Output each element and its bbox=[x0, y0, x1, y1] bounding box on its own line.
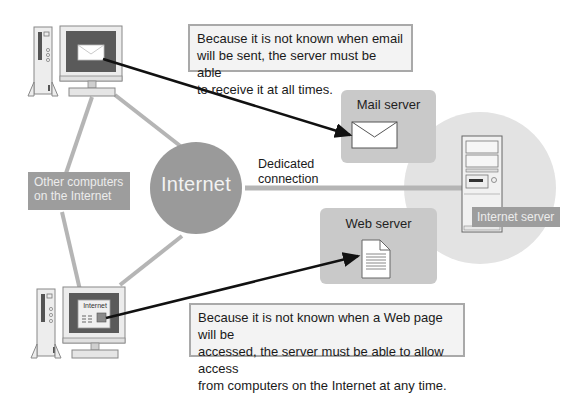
internet-server-label: Internet server bbox=[472, 207, 560, 227]
document-icon bbox=[362, 240, 390, 278]
mail-server-label: Mail server bbox=[341, 97, 436, 112]
web-note: Because it is not known when a Web page … bbox=[189, 303, 465, 357]
email-note: Because it is not known when email will … bbox=[188, 24, 413, 72]
email-note-line-1: Because it is not known when email bbox=[197, 30, 404, 47]
other-computers-line-1: Other computers bbox=[34, 175, 124, 189]
client-computer-bottom bbox=[31, 287, 125, 358]
dedicated-connection-label: Dedicated connection bbox=[258, 157, 318, 187]
other-computers-line-2: on the Internet bbox=[34, 189, 124, 203]
browser-screen-label: Internet bbox=[80, 302, 110, 309]
connector-bottom-left bbox=[62, 212, 80, 290]
internet-node: Internet bbox=[150, 142, 242, 234]
web-server-label: Web server bbox=[320, 216, 437, 231]
dedicated-line-1: Dedicated bbox=[258, 157, 318, 172]
web-note-line-3: from computers on the Internet at any ti… bbox=[198, 377, 456, 394]
web-note-line-1: Because it is not known when a Web page … bbox=[198, 309, 456, 343]
dedicated-line-2: connection bbox=[258, 172, 318, 187]
connector-bottom-internet bbox=[120, 236, 182, 285]
web-note-line-2: accessed, the server must be able to all… bbox=[198, 343, 456, 377]
email-note-line-3: to receive it at all times. bbox=[197, 81, 404, 98]
other-computers-label: Other computers on the Internet bbox=[28, 172, 130, 210]
internet-label: Internet bbox=[150, 173, 242, 196]
email-note-line-2: will be sent, the server must be able bbox=[197, 47, 404, 81]
